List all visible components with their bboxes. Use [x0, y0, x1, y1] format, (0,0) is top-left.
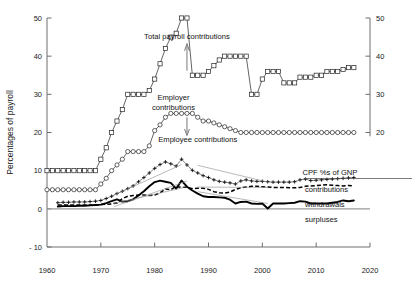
marker-square: [77, 169, 81, 173]
marker-square: [83, 169, 87, 173]
marker-square: [99, 157, 103, 161]
marker-circle: [56, 188, 60, 192]
annotation-label: contributions: [152, 103, 195, 112]
marker-circle: [330, 130, 334, 134]
marker-plus: [61, 201, 65, 205]
marker-circle: [169, 111, 173, 115]
marker-circle: [293, 130, 297, 134]
marker-plus: [201, 174, 205, 178]
marker-circle: [142, 149, 146, 153]
marker-plus: [169, 162, 173, 166]
marker-plus: [217, 180, 221, 184]
marker-plus: [110, 194, 114, 198]
series-employer-contributions: [45, 111, 356, 192]
marker-circle: [228, 127, 232, 131]
marker-circle: [158, 123, 162, 127]
marker-plus: [207, 176, 211, 180]
annotation-label: Employer: [157, 93, 190, 102]
marker-plus: [56, 201, 60, 205]
marker-circle: [233, 128, 237, 132]
marker-square: [314, 73, 318, 77]
marker-circle: [352, 130, 356, 134]
marker-plus: [88, 200, 92, 204]
marker-square: [50, 169, 54, 173]
marker-square: [303, 75, 307, 79]
marker-circle: [110, 169, 114, 173]
marker-plus: [277, 180, 281, 184]
x-ticklabel: 2010: [308, 266, 325, 275]
marker-circle: [303, 130, 307, 134]
marker-circle: [255, 130, 259, 134]
marker-circle: [185, 111, 189, 115]
x-ticklabel: 1960: [39, 266, 56, 275]
marker-square: [88, 169, 92, 173]
marker-plus: [314, 178, 318, 182]
marker-square: [126, 92, 130, 96]
marker-square: [249, 92, 253, 96]
legend-group: CPF %s of GNPcontributionswithdrawalssur…: [303, 168, 412, 224]
marker-square: [319, 73, 323, 77]
marker-square: [201, 73, 205, 77]
marker-circle: [309, 130, 313, 134]
marker-circle: [115, 163, 119, 167]
marker-circle: [314, 130, 318, 134]
marker-circle: [50, 188, 54, 192]
marker-square: [66, 169, 70, 173]
chart-canvas: 50403020100- 105040302019601970198019902…: [0, 0, 416, 289]
marker-square: [228, 54, 232, 58]
marker-square: [120, 108, 124, 112]
annotation-label: Total payroll contributions: [144, 32, 230, 41]
marker-square: [309, 75, 313, 79]
marker-circle: [163, 115, 167, 119]
marker-square: [72, 169, 76, 173]
axes-group: 50403020100- 105040302019601970198019902…: [29, 14, 384, 275]
marker-plus: [282, 180, 286, 184]
marker-square: [282, 81, 286, 85]
marker-plus: [212, 178, 216, 182]
marker-circle: [174, 111, 178, 115]
marker-circle: [196, 115, 200, 119]
marker-circle: [66, 188, 70, 192]
marker-plus: [331, 177, 335, 181]
marker-square: [233, 54, 237, 58]
marker-square: [239, 54, 243, 58]
marker-circle: [83, 188, 87, 192]
marker-circle: [190, 111, 194, 115]
marker-circle: [336, 130, 340, 134]
marker-square: [45, 169, 49, 173]
y-ticklabel-left: 40: [34, 52, 42, 61]
marker-plus: [164, 160, 168, 164]
legend-entry-contributions: contributions: [305, 185, 348, 194]
marker-circle: [239, 130, 243, 134]
marker-square: [336, 69, 340, 73]
marker-circle: [126, 149, 130, 153]
marker-plus: [250, 179, 254, 183]
marker-plus: [78, 200, 82, 204]
marker-plus: [72, 200, 76, 204]
marker-square: [255, 92, 259, 96]
marker-circle: [260, 130, 264, 134]
marker-square: [147, 88, 151, 92]
marker-circle: [266, 130, 270, 134]
y-ticklabel-right: 50: [376, 14, 384, 23]
legend-entry-surpluses: surpluses: [305, 215, 338, 224]
marker-circle: [72, 188, 76, 192]
y-ticklabel-left: 50: [34, 14, 42, 23]
marker-square: [271, 69, 275, 73]
series-leader-line: [198, 165, 268, 182]
marker-circle: [319, 130, 323, 134]
marker-plus: [287, 180, 291, 184]
marker-plus: [309, 179, 313, 183]
marker-square: [185, 16, 189, 20]
y-ticklabel-right: 40: [376, 52, 384, 61]
marker-circle: [223, 125, 227, 129]
marker-square: [244, 54, 248, 58]
marker-circle: [206, 119, 210, 123]
marker-plus: [244, 178, 248, 182]
marker-plus: [298, 178, 302, 182]
marker-circle: [325, 130, 329, 134]
marker-circle: [45, 188, 49, 192]
marker-circle: [136, 149, 140, 153]
marker-plus: [67, 201, 71, 205]
marker-square: [61, 169, 65, 173]
